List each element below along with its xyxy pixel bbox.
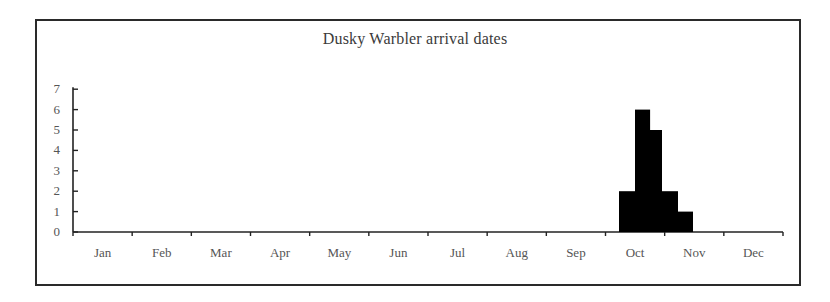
x-tick-label-jul: Jul: [450, 245, 466, 260]
x-axis: JanFebMarAprMayJunJulAugSepOctNovDec: [73, 232, 783, 260]
bar-oct-3: [650, 130, 662, 232]
y-tick-label: 2: [54, 183, 61, 198]
y-tick-label: 5: [54, 122, 61, 137]
x-tick-label-oct: Oct: [626, 245, 645, 260]
bar-nov-4: [662, 191, 678, 232]
y-axis: 01234567: [54, 81, 79, 239]
bar-oct-2: [635, 110, 650, 232]
y-tick-label: 7: [54, 81, 61, 96]
bar-oct-1: [619, 191, 635, 232]
bar-series: [619, 110, 693, 232]
x-tick-label-jun: Jun: [389, 245, 408, 260]
x-tick-label-jan: Jan: [94, 245, 112, 260]
bar-nov-5: [678, 212, 693, 232]
x-tick-label-aug: Aug: [506, 245, 529, 260]
x-tick-label-mar: Mar: [210, 245, 232, 260]
x-tick-label-apr: Apr: [270, 245, 291, 260]
y-tick-label: 4: [54, 142, 61, 157]
y-tick-label: 3: [54, 163, 61, 178]
y-tick-label: 1: [54, 204, 61, 219]
x-tick-label-feb: Feb: [152, 245, 172, 260]
y-tick-label: 6: [54, 102, 61, 117]
chart-plot-area: 01234567 JanFebMarAprMayJunJulAugSepOctN…: [0, 0, 830, 302]
x-tick-label-dec: Dec: [743, 245, 764, 260]
x-tick-label-nov: Nov: [683, 245, 706, 260]
y-tick-label: 0: [54, 224, 61, 239]
x-tick-label-may: May: [327, 245, 351, 260]
x-tick-label-sep: Sep: [566, 245, 586, 260]
